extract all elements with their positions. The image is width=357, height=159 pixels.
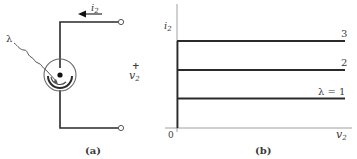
caption-b: (b) — [255, 145, 271, 156]
anode-dot — [57, 72, 62, 77]
top-terminal — [118, 19, 123, 24]
figure-canvas: i2 λ + v2 (a) 3 2 λ = 1 i2 0 v2 (b) — [0, 0, 357, 159]
curve-label-2: 2 — [341, 57, 347, 68]
iv-graph: 3 2 λ = 1 i2 0 v2 (b) — [164, 4, 352, 156]
bottom-wire — [60, 90, 118, 128]
y-axis-label: i2 — [164, 20, 172, 33]
current-label: i2 — [91, 2, 99, 15]
bottom-terminal — [118, 125, 123, 130]
caption-a: (a) — [85, 145, 101, 156]
origin-label: 0 — [168, 130, 174, 140]
curve-label-1: λ = 1 — [318, 86, 345, 97]
light-label: λ — [6, 33, 13, 44]
x-axis-label: v2 — [336, 128, 347, 142]
current-arrow-icon — [78, 11, 86, 18]
voltage-label: v2 — [129, 69, 140, 83]
circuit-diagram: i2 λ + v2 (a) — [6, 2, 140, 156]
curve-label-3: 3 — [341, 28, 347, 39]
